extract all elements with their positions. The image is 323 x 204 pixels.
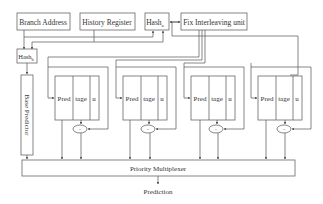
history-register-label: History Register — [82, 18, 132, 27]
pred-label: Pred — [194, 95, 207, 103]
pred-label: Pred — [58, 95, 71, 103]
comparator-icon: = — [79, 127, 82, 132]
fix-interleaving-label: Fix Interleaving unit — [183, 18, 246, 27]
tage-label: tage — [75, 95, 87, 103]
hash-a-label: Hasha — [146, 18, 164, 28]
u-label: u — [92, 95, 96, 103]
base-predictor-label: Base Predictor — [23, 94, 31, 136]
comparator-icon: = — [215, 127, 218, 132]
comparator-icon: = — [283, 127, 286, 132]
tage-label: tage — [278, 95, 290, 103]
priority-multiplexer-label: Priority Multiplexer — [130, 165, 187, 173]
tage-diagram: Branch Address History Register Hasha Fi… — [0, 0, 323, 204]
prediction-label: Prediction — [144, 188, 173, 196]
tage-label: tage — [143, 95, 155, 103]
tage-label: tage — [211, 95, 223, 103]
pred-label: Pred — [261, 95, 274, 103]
u-label: u — [228, 95, 232, 103]
comparator-icon: = — [147, 127, 150, 132]
hash-b-label: Hashb — [18, 53, 34, 62]
u-label: u — [160, 95, 164, 103]
pred-label: Pred — [126, 95, 139, 103]
u-label: u — [295, 95, 299, 103]
branch-address-label: Branch Address — [19, 18, 67, 27]
